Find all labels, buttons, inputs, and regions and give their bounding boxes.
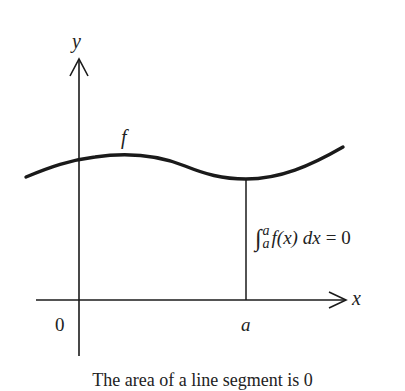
integral-lower-limit: a — [263, 237, 270, 250]
x-axis-label: x — [352, 288, 361, 308]
curve-label: f — [121, 127, 127, 147]
function-curve — [26, 147, 343, 179]
integral-result: 0 — [341, 228, 351, 247]
figure-caption: The area of a line segment is 0 — [0, 370, 405, 391]
integrand: f(x) dx — [272, 228, 321, 247]
point-a-label: a — [241, 315, 251, 334]
equals-sign: = — [326, 228, 337, 247]
origin-label: 0 — [55, 315, 65, 334]
integral-upper-limit: a — [263, 224, 270, 237]
integral-limits: a a — [263, 224, 270, 251]
integral-sign-icon: ∫ — [255, 226, 262, 250]
y-axis-label: y — [72, 31, 81, 51]
integral-annotation: ∫ a a f(x) dx = 0 — [255, 224, 351, 251]
